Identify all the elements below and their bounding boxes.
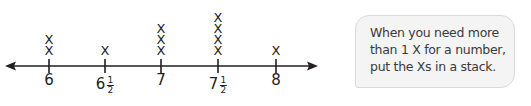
x-mark: X xyxy=(269,45,283,57)
hint-callout-bubble: When you need more than 1 X for a number… xyxy=(355,15,515,88)
callout-line-2: than 1 X for a number, xyxy=(370,41,504,58)
tick-label-fraction: 12 xyxy=(219,76,227,95)
x-mark: X xyxy=(154,23,168,35)
tick-label: 7 xyxy=(156,72,166,88)
x-mark: X xyxy=(42,34,56,46)
tick-label-whole: 6 xyxy=(96,76,106,92)
tick-label: 6 xyxy=(44,72,54,88)
tick-label-whole: 8 xyxy=(271,72,281,88)
fraction-denominator: 2 xyxy=(220,86,226,95)
tick-label: 612 xyxy=(96,72,114,95)
callout-line-3: put the Xs in a stack. xyxy=(370,58,504,75)
line-plot: XXXXXXXXXXX 661277128 xyxy=(0,0,330,106)
tick-label-whole: 7 xyxy=(156,72,166,88)
tick-label-whole: 6 xyxy=(44,72,54,88)
tick-label: 8 xyxy=(271,72,281,88)
callout-line-1: When you need more xyxy=(370,24,504,41)
tick-label-whole: 7 xyxy=(209,76,219,92)
x-mark: X xyxy=(211,12,225,24)
tick-label-fraction: 12 xyxy=(106,76,114,95)
fraction-denominator: 2 xyxy=(107,86,113,95)
tick-label: 712 xyxy=(209,72,227,95)
x-mark: X xyxy=(98,45,112,57)
